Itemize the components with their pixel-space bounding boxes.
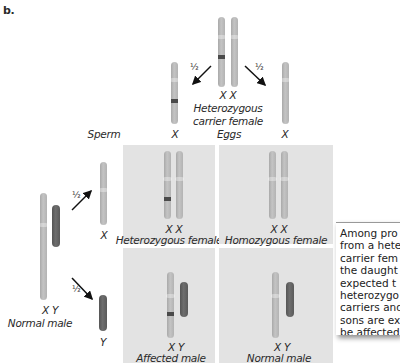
x-chromosome-normal (176, 151, 183, 219)
x-chromosome-mutant (167, 272, 174, 338)
mother-genotype: X X (220, 89, 237, 101)
egg-left-label: X (172, 128, 179, 140)
sperm-x-chromosome (100, 162, 107, 225)
x-chromosome-normal (272, 272, 279, 338)
probability-label: ½ (190, 62, 199, 72)
sperm-x-label: X (101, 229, 108, 241)
x-chromosome-normal (281, 151, 288, 219)
father-x-chromosome (40, 193, 47, 300)
egg-right-label: X (282, 128, 289, 140)
x-chromosome-mutant (164, 151, 171, 219)
cell-phenotype: Homozygous female (225, 234, 327, 246)
mutation-band (167, 312, 174, 316)
father-title: Normal male (8, 317, 72, 329)
cell-phenotype: Normal male (247, 352, 311, 363)
mother-title-line2: carrier female (193, 115, 263, 127)
mother-title-line1: Heterozygous (193, 102, 262, 114)
y-chromosome (286, 282, 294, 317)
x-chromosome-mutant (218, 17, 225, 87)
egg-x-normal (282, 62, 289, 124)
x-chromosome-normal (269, 151, 276, 219)
egg-x-mutant (171, 62, 178, 124)
punnett-cell-affected-male: X Y Affected male (123, 248, 215, 363)
eggs-header: Eggs (217, 128, 241, 140)
sperm-y-label: Y (100, 336, 106, 348)
probability-label: ½ (255, 62, 264, 72)
y-chromosome (180, 282, 188, 317)
cell-phenotype: Heterozygous female (116, 234, 222, 246)
cell-phenotype: Affected male (136, 352, 206, 363)
punnett-cell-normal-male: X Y Normal male (219, 248, 333, 363)
mutation-band (171, 99, 178, 103)
father-genotype: X Y (42, 304, 58, 316)
sperm-y-chromosome (99, 295, 107, 331)
mutation-band (218, 55, 225, 59)
father-y-chromosome (52, 205, 60, 247)
explanation-note: Among pro from a hete carrier fem the da… (336, 222, 400, 335)
punnett-cell-homozygous-female: X X Homozygous female (219, 145, 333, 244)
probability-label: ½ (72, 284, 81, 294)
punnett-cell-heterozygous-female: X X Heterozygous female (123, 145, 215, 244)
mutation-band (164, 197, 171, 201)
probability-label: ½ (72, 190, 81, 200)
x-chromosome-normal (231, 17, 238, 87)
sperm-header: Sperm (88, 128, 121, 140)
